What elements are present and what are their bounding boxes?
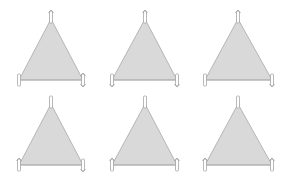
- right-vertex-arrow-icon: [81, 159, 86, 172]
- triangle-shape: [205, 19, 272, 80]
- left-vertex-arrow-icon: [18, 74, 21, 86]
- left-vertex-arrow-icon: [204, 74, 207, 86]
- right-vertex-arrow-icon: [175, 74, 180, 87]
- right-vertex-arrow-icon: [270, 74, 275, 87]
- triangle-1: [18, 10, 86, 87]
- triangle-grid: [0, 0, 288, 177]
- right-vertex-arrow-icon: [175, 158, 180, 171]
- apex-arrow-icon: [144, 96, 147, 108]
- left-vertex-arrow-icon: [110, 158, 115, 171]
- triangle-4: [17, 96, 86, 172]
- triangle-shape: [112, 104, 177, 165]
- triangle-shape: [112, 19, 177, 80]
- triangle-6: [203, 96, 275, 171]
- apex-arrow-icon: [236, 10, 241, 23]
- apex-arrow-icon: [143, 10, 148, 23]
- triangle-2: [110, 10, 180, 87]
- right-vertex-arrow-icon: [81, 73, 86, 87]
- left-vertex-arrow-icon: [17, 158, 22, 171]
- triangle-shape: [205, 104, 272, 165]
- right-vertex-arrow-icon: [270, 158, 275, 171]
- apex-arrow-icon: [49, 10, 54, 23]
- triangle-3: [204, 10, 275, 87]
- left-vertex-arrow-icon: [203, 158, 208, 171]
- triangle-shape: [19, 19, 83, 80]
- apex-arrow-icon: [237, 96, 240, 108]
- diagram-canvas: [0, 0, 288, 177]
- apex-arrow-icon: [50, 96, 53, 108]
- left-vertex-arrow-icon: [110, 74, 115, 87]
- triangle-5: [110, 96, 180, 171]
- triangle-shape: [19, 104, 83, 165]
